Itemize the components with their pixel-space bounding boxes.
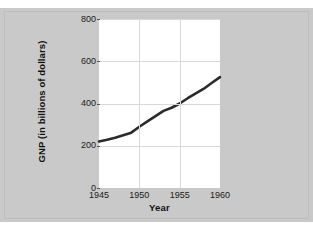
y-tick-mark xyxy=(97,146,100,147)
gnp-series-line xyxy=(99,77,220,141)
x-tick-label: 1945 xyxy=(89,190,109,200)
gridline-horizontal xyxy=(99,61,220,62)
x-axis-title: Year xyxy=(99,202,220,213)
plot-area xyxy=(99,19,220,188)
x-tick-label: 1960 xyxy=(210,190,230,200)
gridline-vertical xyxy=(180,19,181,188)
x-tick-label: 1950 xyxy=(129,190,149,200)
y-tick-label: 200 xyxy=(81,141,96,150)
y-tick-mark xyxy=(97,104,100,105)
y-tick-label: 400 xyxy=(81,99,96,108)
gridline-horizontal xyxy=(99,146,220,147)
y-axis-title: GNP (in billions of dollars) xyxy=(36,27,47,177)
y-tick-label: 800 xyxy=(81,15,96,24)
y-tick-mark xyxy=(97,188,100,189)
gridline-vertical xyxy=(139,19,140,188)
y-tick-mark xyxy=(97,61,100,62)
gridline-horizontal xyxy=(99,104,220,105)
chart-figure: 0200400600800 1945195019551960 Year GNP … xyxy=(0,0,313,230)
x-tick-label: 1955 xyxy=(170,190,190,200)
y-tick-label: 600 xyxy=(81,57,96,66)
y-tick-mark xyxy=(97,19,100,20)
y-axis-ticks: 0200400600800 xyxy=(60,19,96,188)
gridline-horizontal xyxy=(99,19,220,20)
